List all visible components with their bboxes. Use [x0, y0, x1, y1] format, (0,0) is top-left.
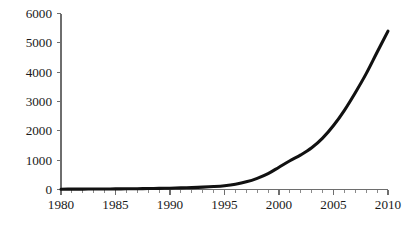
series-line-series-1	[61, 31, 388, 189]
x-tick-label: 1990	[157, 197, 184, 212]
y-tick-label: 4000	[26, 65, 53, 80]
x-tick-label: 2005	[320, 197, 347, 212]
line-chart-plot: 0100020003000400050006000 19801985199019…	[0, 0, 419, 232]
y-tick-label: 5000	[26, 35, 53, 50]
y-tick-label: 0	[45, 182, 52, 197]
x-tick-label: 1995	[211, 197, 238, 212]
axis-layer	[61, 14, 388, 190]
y-axis-tick-labels: 0100020003000400050006000	[26, 6, 53, 197]
y-tick-label: 1000	[26, 153, 53, 168]
x-tick-label: 1980	[48, 197, 75, 212]
x-tick-label: 2000	[266, 197, 293, 212]
y-tick-label: 6000	[26, 6, 53, 21]
y-tick-label: 2000	[26, 123, 53, 138]
x-axis-tick-labels: 1980198519901995200020052010	[48, 197, 402, 212]
x-tick-label: 2010	[375, 197, 402, 212]
data-series-layer	[61, 31, 388, 189]
tick-marks-layer	[57, 14, 389, 196]
y-tick-label: 3000	[26, 94, 53, 109]
x-tick-label: 1985	[102, 197, 129, 212]
chart-container: 0100020003000400050006000 19801985199019…	[0, 0, 419, 232]
